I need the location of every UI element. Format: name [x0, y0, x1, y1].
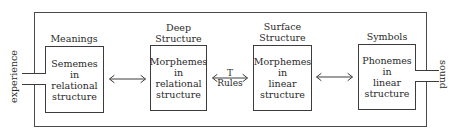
bidirectional-arrow-icon	[317, 74, 353, 81]
bidirectional-arrow-icon	[110, 76, 146, 83]
label-line: T	[214, 68, 246, 78]
label-line: Rules	[214, 78, 246, 88]
connector-arrows	[0, 0, 460, 134]
transformation-rules-label: T Rules	[214, 68, 246, 88]
